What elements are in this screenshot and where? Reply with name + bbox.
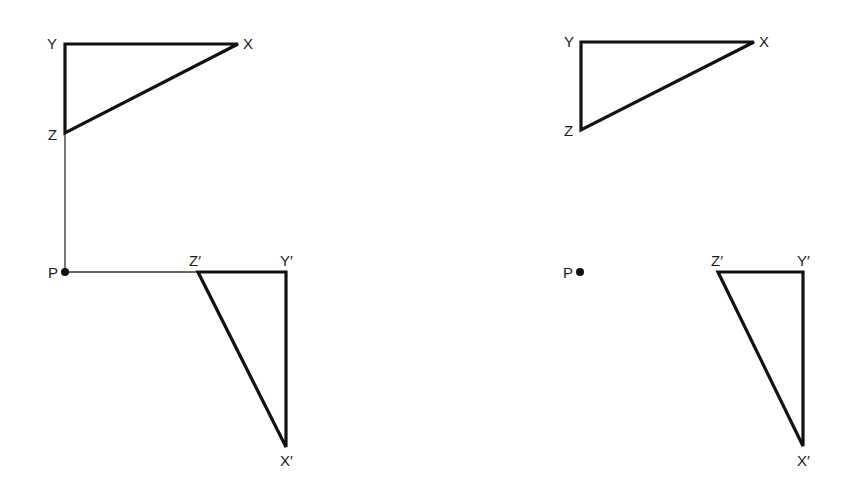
- triangle-xyz: [581, 42, 754, 130]
- right-panel: Y X Z Z′ Y′ X′ P: [563, 33, 810, 469]
- diagram-canvas: Y X Z Z′ Y′ X′ P Y X Z Z′ Y′ X′ P: [0, 0, 850, 498]
- centre-point-p: [576, 268, 584, 276]
- label-y: Y: [47, 35, 57, 52]
- centre-point-p: [61, 268, 69, 276]
- label-x-prime: X′: [797, 452, 810, 469]
- triangle-x-prime-y-prime-z-prime: [198, 272, 286, 447]
- label-y: Y: [564, 33, 574, 50]
- label-p: P: [48, 264, 58, 281]
- triangle-xyz: [65, 44, 238, 133]
- label-x: X: [759, 33, 769, 50]
- label-z-prime: Z′: [189, 252, 201, 269]
- label-y-prime: Y′: [797, 252, 810, 269]
- label-p: P: [563, 264, 573, 281]
- label-x-prime: X′: [280, 452, 293, 469]
- label-y-prime: Y′: [280, 252, 293, 269]
- label-z: Z: [564, 122, 573, 139]
- left-panel: Y X Z Z′ Y′ X′ P: [47, 35, 293, 469]
- label-x: X: [243, 35, 253, 52]
- construction-lines: [65, 133, 198, 272]
- label-z: Z: [48, 126, 57, 143]
- label-z-prime: Z′: [711, 252, 723, 269]
- triangle-x-prime-y-prime-z-prime: [718, 272, 803, 446]
